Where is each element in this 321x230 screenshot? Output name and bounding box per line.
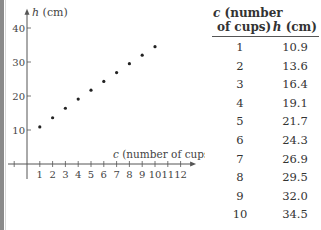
x-tick-label: 12	[174, 169, 187, 180]
data-point	[64, 107, 67, 110]
data-point	[51, 116, 54, 119]
x-tick-label: 7	[113, 169, 119, 180]
y-tick-label: 30	[12, 57, 25, 68]
data-points	[38, 45, 156, 128]
x-tick-label: 3	[62, 169, 68, 180]
data-point	[38, 125, 41, 128]
table-row: 521.7	[212, 112, 319, 131]
x-tick-label: 9	[139, 169, 145, 180]
data-point	[89, 89, 92, 92]
table-header: c (numberof cups) h (cm)	[212, 3, 319, 37]
cell-h: 32.0	[271, 187, 319, 206]
x-tick-label: 2	[49, 169, 55, 180]
cell-c: 5	[212, 112, 268, 131]
cell-c: 4	[212, 94, 268, 113]
data-point	[153, 45, 156, 48]
x-axis-label: c (number of cups)	[113, 148, 205, 160]
x-tick-label: 8	[126, 169, 132, 180]
table-row: 932.0	[212, 187, 319, 206]
data-point	[128, 62, 131, 65]
cell-c: 2	[212, 57, 268, 76]
x-tick-label: 1	[37, 169, 43, 180]
y-axis-label: h (cm)	[32, 6, 68, 19]
table-row: 213.6	[212, 57, 319, 76]
x-tick-label: 4	[75, 169, 81, 180]
table-row: 316.4	[212, 75, 319, 94]
x-tick-label: 5	[88, 169, 94, 180]
scatter-plot: 12345678910111210203040 h (cm) c (number…	[0, 0, 205, 190]
x-tick-label: 6	[101, 169, 107, 180]
table-row: 829.5	[212, 168, 319, 187]
y-tick-label: 20	[12, 91, 25, 102]
cell-h: 24.3	[271, 131, 319, 150]
y-tick-label: 40	[12, 23, 25, 34]
data-point	[141, 54, 144, 57]
table-row: 1034.5	[212, 205, 319, 224]
cell-h: 13.6	[271, 57, 319, 76]
y-tick-label: 10	[12, 125, 25, 136]
table-row: 726.9	[212, 150, 319, 169]
table-row: 624.3	[212, 131, 319, 150]
cell-c: 10	[212, 205, 268, 224]
cell-c: 9	[212, 187, 268, 206]
header-h: h (cm)	[273, 20, 317, 34]
data-table: c (numberof cups) h (cm) 110.9213.6316.4…	[212, 3, 319, 224]
cell-h: 34.5	[271, 205, 319, 224]
cell-c: 6	[212, 131, 268, 150]
table-body: 110.9213.6316.4419.1521.7624.3726.9829.5…	[212, 37, 319, 224]
cell-c: 8	[212, 168, 268, 187]
cell-h: 29.5	[271, 168, 319, 187]
cell-c: 3	[212, 75, 268, 94]
cell-h: 19.1	[271, 94, 319, 113]
data-point	[115, 71, 118, 74]
cell-c: 1	[212, 38, 268, 57]
data-point	[102, 80, 105, 83]
x-axis-arrow-icon	[190, 162, 196, 167]
x-tick-label: 11	[161, 169, 174, 180]
cell-h: 26.9	[271, 150, 319, 169]
table-row: 110.9	[212, 38, 319, 57]
cell-h: 10.9	[271, 38, 319, 57]
data-point	[77, 97, 80, 100]
cell-h: 16.4	[271, 75, 319, 94]
y-axis-arrow-icon	[25, 9, 30, 15]
x-tick-label: 10	[149, 169, 162, 180]
table-row: 419.1	[212, 94, 319, 113]
cell-c: 7	[212, 150, 268, 169]
cell-h: 21.7	[271, 112, 319, 131]
